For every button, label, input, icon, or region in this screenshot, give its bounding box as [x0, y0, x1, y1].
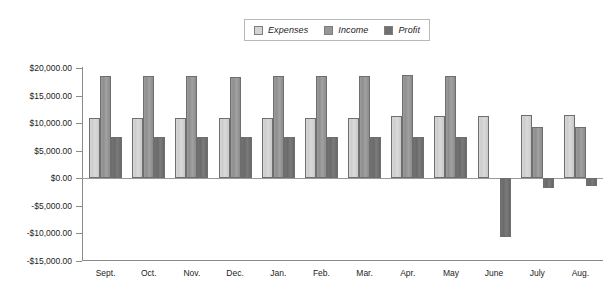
bar-group	[305, 68, 338, 260]
bar-group	[132, 68, 165, 260]
y-tick-mark	[76, 233, 82, 234]
y-tick-label: -$10,000.00	[0, 228, 72, 238]
y-tick-label: -$5,000.00	[0, 201, 72, 211]
legend-swatch-profit	[384, 26, 393, 35]
bar-expenses	[521, 115, 532, 178]
bar-income	[316, 76, 327, 178]
bar-income	[143, 76, 154, 178]
y-tick-label: $5,000.00	[0, 146, 72, 156]
x-axis-label: Oct.	[127, 268, 170, 278]
y-axis-line	[82, 67, 83, 261]
bar-expenses	[262, 118, 273, 179]
x-axis-label: June	[473, 268, 516, 278]
bar-profit	[370, 137, 381, 178]
x-axis-label: Aug.	[559, 268, 602, 278]
y-tick-mark	[76, 68, 82, 69]
bar-income	[532, 127, 543, 178]
bar-group	[89, 68, 122, 260]
y-tick-label: -$15,000.00	[0, 256, 72, 266]
bar-expenses	[348, 118, 359, 179]
bar-group	[478, 68, 511, 260]
bar-profit	[586, 178, 597, 186]
bar-profit	[543, 178, 554, 188]
bar-expenses	[219, 118, 230, 179]
bar-income	[273, 76, 284, 178]
x-axis-label: Jan.	[257, 268, 300, 278]
x-axis-label: Mar.	[343, 268, 386, 278]
bar-income	[100, 76, 111, 178]
y-tick-label: $0.00	[0, 173, 72, 183]
x-axis-label: Apr.	[386, 268, 429, 278]
bar-profit	[154, 137, 165, 178]
bar-expenses	[434, 116, 445, 178]
bar-profit	[284, 137, 295, 178]
legend-swatch-income	[324, 26, 333, 35]
x-axis-label: Feb.	[300, 268, 343, 278]
bar-expenses	[89, 118, 100, 179]
bar-income	[230, 77, 241, 178]
bar-profit	[111, 137, 122, 178]
bar-group	[391, 68, 424, 260]
bar-income	[359, 76, 370, 178]
bar-income	[445, 76, 456, 178]
legend-label-profit: Profit	[398, 25, 420, 35]
bar-expenses	[391, 116, 402, 178]
bar-profit	[413, 137, 424, 178]
legend-item-income: Income	[324, 25, 368, 35]
bar-income	[575, 127, 586, 178]
x-axis-label: May	[429, 268, 472, 278]
x-axis-label: Dec.	[214, 268, 257, 278]
bar-group	[219, 68, 252, 260]
plot-area	[84, 68, 602, 260]
bar-expenses	[132, 118, 143, 179]
legend-label-expenses: Expenses	[268, 25, 308, 35]
legend-item-expenses: Expenses	[254, 25, 308, 35]
bar-group	[434, 68, 467, 260]
bar-profit	[500, 178, 511, 237]
bar-expenses	[564, 115, 575, 178]
bar-group	[262, 68, 295, 260]
y-tick-mark	[76, 206, 82, 207]
bar-profit	[241, 137, 252, 178]
y-tick-label: $15,000.00	[0, 91, 72, 101]
bar-expenses	[478, 116, 489, 178]
legend-swatch-expenses	[254, 26, 263, 35]
x-axis-label: Sept.	[84, 268, 127, 278]
bar-profit	[456, 137, 467, 178]
bar-expenses	[175, 118, 186, 179]
legend-label-income: Income	[338, 25, 368, 35]
y-tick-mark	[76, 151, 82, 152]
x-axis-label: July	[516, 268, 559, 278]
bar-profit	[197, 137, 208, 178]
bar-group	[564, 68, 597, 260]
bar-income	[186, 76, 197, 178]
bar-expenses	[305, 118, 316, 179]
y-tick-mark	[76, 96, 82, 97]
y-tick-mark	[76, 261, 82, 262]
bar-group	[521, 68, 554, 260]
chart-legend: Expenses Income Profit	[244, 19, 430, 41]
x-axis-label: Nov.	[170, 268, 213, 278]
y-tick-mark	[76, 123, 82, 124]
x-axis-baseline	[82, 260, 603, 261]
bar-group	[348, 68, 381, 260]
y-tick-label: $10,000.00	[0, 118, 72, 128]
y-tick-label: $20,000.00	[0, 63, 72, 73]
bar-income	[402, 75, 413, 178]
bar-group	[175, 68, 208, 260]
bar-profit	[327, 137, 338, 178]
bar-chart: Expenses Income Profit $20,000.00$15,000…	[0, 0, 610, 301]
legend-item-profit: Profit	[384, 25, 420, 35]
